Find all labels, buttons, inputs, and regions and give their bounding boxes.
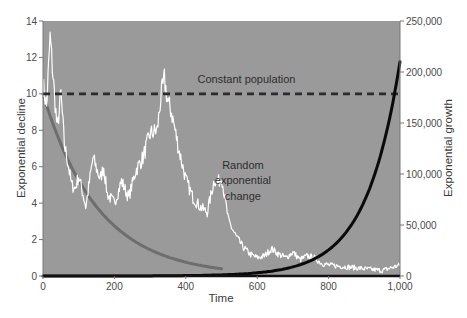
annotation-label: Constant population [198, 73, 296, 85]
y-tick-label-left: 14 [26, 16, 38, 27]
x-tick-label: 400 [177, 281, 194, 292]
annotation-label: change [225, 190, 261, 202]
y-axis-title-left: Exponential decline [15, 98, 27, 198]
y-tick-label-right: 100,000 [406, 169, 443, 180]
y-tick-label-right: 0 [406, 271, 412, 282]
x-tick-label: 1,000 [387, 281, 412, 292]
y-tick-label-right: 150,000 [406, 118, 443, 129]
y-tick-label-left: 10 [26, 88, 38, 99]
x-axis-title: Time [208, 292, 233, 304]
x-tick-label: 600 [249, 281, 266, 292]
x-tick-label: 800 [320, 281, 337, 292]
plot-area [43, 21, 400, 276]
x-tick-label: 200 [106, 281, 123, 292]
y-tick-label-left: 12 [26, 52, 38, 63]
annotation-label: exponential [215, 174, 271, 186]
y-tick-label-right: 50,000 [406, 220, 437, 231]
y-tick-label-left: 2 [31, 234, 37, 245]
x-tick-label: 0 [40, 281, 46, 292]
y-tick-label-left: 8 [31, 125, 37, 136]
chart: 02004006008001,00002468101214050,000100,… [0, 0, 467, 318]
annotation-label: Random [222, 159, 264, 171]
y-tick-label-right: 200,000 [406, 67, 443, 78]
y-axis-title-right: Exponential growth [442, 99, 454, 197]
y-tick-label-left: 6 [31, 161, 37, 172]
y-tick-label-right: 250,000 [406, 16, 443, 27]
y-tick-label-left: 0 [31, 271, 37, 282]
y-tick-label-left: 4 [31, 198, 37, 209]
